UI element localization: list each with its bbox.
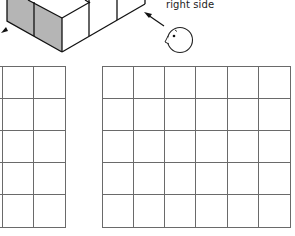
grid-cell[interactable] — [103, 163, 134, 195]
grid-cell[interactable] — [196, 131, 227, 163]
observer-bird-head-icon — [165, 28, 193, 53]
grid-cell[interactable] — [165, 195, 196, 227]
grid-cell[interactable] — [103, 67, 134, 99]
grid-cell[interactable] — [34, 195, 65, 227]
grid-cell[interactable] — [196, 195, 227, 227]
grid-cell[interactable] — [34, 99, 65, 131]
left-arrow-icon — [1, 27, 8, 33]
grid-cell[interactable] — [228, 195, 259, 227]
grid-cell[interactable] — [3, 163, 34, 195]
grid-cell[interactable] — [134, 131, 165, 163]
cube-edge — [62, 2, 90, 18]
grid-cell[interactable] — [34, 131, 65, 163]
grid-cell[interactable] — [134, 67, 165, 99]
right-grid — [102, 66, 291, 228]
grid-cell[interactable] — [228, 131, 259, 163]
grid-cell[interactable] — [196, 67, 227, 99]
grid-cell[interactable] — [259, 99, 290, 131]
grid-cell[interactable] — [34, 67, 65, 99]
grid-cell[interactable] — [134, 195, 165, 227]
grid-cell[interactable] — [196, 99, 227, 131]
grid-cell[interactable] — [3, 131, 34, 163]
grid-cell[interactable] — [3, 67, 34, 99]
right-side-label: right side — [166, 0, 214, 10]
grid-cell[interactable] — [165, 99, 196, 131]
grid-cell[interactable] — [134, 163, 165, 195]
grid-cell[interactable] — [228, 67, 259, 99]
grid-cell[interactable] — [103, 195, 134, 227]
grid-cell[interactable] — [196, 163, 227, 195]
grid-cell[interactable] — [134, 99, 165, 131]
grid-cell[interactable] — [34, 163, 65, 195]
grid-cell[interactable] — [259, 195, 290, 227]
grid-cell[interactable] — [103, 131, 134, 163]
grid-cell[interactable] — [228, 99, 259, 131]
grid-cell[interactable] — [228, 163, 259, 195]
grid-cell[interactable] — [3, 195, 34, 227]
grid-cell[interactable] — [259, 131, 290, 163]
left-grid — [0, 66, 66, 228]
grid-cell[interactable] — [259, 67, 290, 99]
grid-cell[interactable] — [103, 99, 134, 131]
grid-cell[interactable] — [3, 99, 34, 131]
grid-cell[interactable] — [165, 163, 196, 195]
grid-cell[interactable] — [165, 67, 196, 99]
grid-cell[interactable] — [165, 131, 196, 163]
cube-model — [7, 0, 145, 52]
figure: right side — [0, 0, 295, 236]
grid-cell[interactable] — [259, 163, 290, 195]
right-side-arrow-icon — [144, 12, 164, 26]
